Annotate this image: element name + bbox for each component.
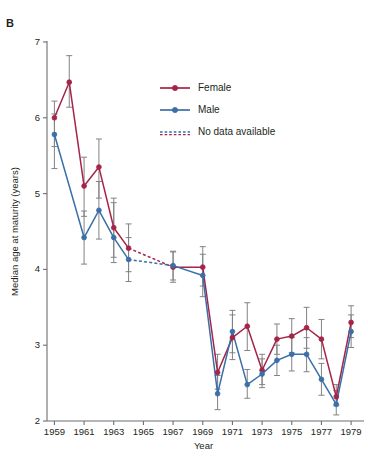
data-point-male[interactable] xyxy=(275,358,280,363)
data-point-male[interactable] xyxy=(319,377,324,382)
y-tick-label: 6 xyxy=(35,112,40,123)
data-point-female[interactable] xyxy=(126,246,131,251)
x-tick-label: 1969 xyxy=(192,426,213,437)
x-tick-label: 1979 xyxy=(341,426,362,437)
data-point-male[interactable] xyxy=(52,132,57,137)
series-line-male xyxy=(54,134,128,259)
data-point-female[interactable] xyxy=(304,325,309,330)
y-tick-label: 3 xyxy=(35,339,40,350)
data-point-female[interactable] xyxy=(200,265,205,270)
x-tick-label: 1977 xyxy=(311,426,332,437)
legend-marker-male xyxy=(172,107,177,112)
x-tick-label: 1963 xyxy=(103,426,124,437)
x-tick-label: 1965 xyxy=(133,426,154,437)
data-point-male[interactable] xyxy=(260,372,265,377)
legend-label-no-data-available: No data available xyxy=(198,126,276,137)
legend-label-male: Male xyxy=(198,104,220,115)
x-tick-label: 1975 xyxy=(281,426,302,437)
data-point-male[interactable] xyxy=(334,402,339,407)
data-point-male[interactable] xyxy=(171,263,176,268)
x-tick-label: 1967 xyxy=(163,426,184,437)
x-tick-label: 1961 xyxy=(74,426,95,437)
y-tick-label: 5 xyxy=(35,188,40,199)
y-tick-label: 2 xyxy=(35,415,40,426)
data-point-female[interactable] xyxy=(334,394,339,399)
data-point-female[interactable] xyxy=(245,324,250,329)
data-point-male[interactable] xyxy=(289,352,294,357)
data-point-male[interactable] xyxy=(215,391,220,396)
data-point-female[interactable] xyxy=(349,320,354,325)
x-tick-label: 1971 xyxy=(222,426,243,437)
data-point-male[interactable] xyxy=(126,257,131,262)
data-point-male[interactable] xyxy=(349,329,354,334)
data-point-female[interactable] xyxy=(275,337,280,342)
data-point-male[interactable] xyxy=(200,273,205,278)
data-point-female[interactable] xyxy=(215,370,220,375)
data-point-female[interactable] xyxy=(230,335,235,340)
chart-plot-area: 2345671959196119631965196719691971197319… xyxy=(0,0,368,467)
x-tick-label: 1959 xyxy=(44,426,65,437)
data-point-male[interactable] xyxy=(82,235,87,240)
data-point-male[interactable] xyxy=(245,382,250,387)
data-point-male[interactable] xyxy=(111,235,116,240)
y-tick-label: 4 xyxy=(35,263,40,274)
x-axis-title: Year xyxy=(194,440,213,451)
data-point-female[interactable] xyxy=(52,115,57,120)
data-point-female[interactable] xyxy=(97,165,102,170)
data-point-female[interactable] xyxy=(82,184,87,189)
data-point-female[interactable] xyxy=(67,80,72,85)
series-dash-male xyxy=(129,260,174,266)
legend-label-female: Female xyxy=(198,82,232,93)
legend-marker-female xyxy=(172,85,177,90)
chart-panel: B 23456719591961196319651967196919711973… xyxy=(0,0,368,467)
data-point-male[interactable] xyxy=(304,352,309,357)
data-point-female[interactable] xyxy=(319,337,324,342)
data-point-female[interactable] xyxy=(111,225,116,230)
y-axis-title: Median age at maturity (years) xyxy=(9,167,20,296)
data-point-female[interactable] xyxy=(289,334,294,339)
x-tick-label: 1973 xyxy=(252,426,273,437)
data-point-male[interactable] xyxy=(230,329,235,334)
data-point-male[interactable] xyxy=(97,208,102,213)
y-tick-label: 7 xyxy=(35,36,40,47)
